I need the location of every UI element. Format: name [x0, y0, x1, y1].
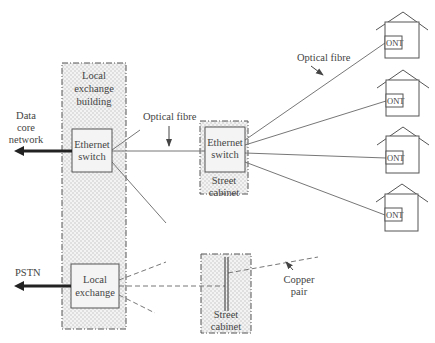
ont-3: ONT — [387, 153, 405, 163]
house-2 — [377, 70, 429, 116]
building-label-line3: building — [76, 96, 112, 107]
cabinet2-label-line2: cabinet — [211, 321, 241, 332]
data-core-label-line2: core — [17, 122, 35, 133]
diagram-canvas: Local exchange building Street cabinet S… — [0, 0, 435, 343]
copper-pair-pointer — [286, 262, 293, 270]
cabinet1-label-line1: Street — [212, 175, 237, 186]
street-cabinet-2: Street cabinet — [201, 254, 251, 333]
pstn-label: PSTN — [15, 267, 41, 278]
optical-fibre-label-1: Optical fibre — [143, 111, 197, 122]
ethernet-switch-exchange: Ethernet switch — [72, 129, 112, 172]
ethernet-switch-cabinet: Ethernet switch — [205, 127, 245, 172]
optical-fibre-pointer-2 — [311, 66, 323, 75]
optical-fibre-links — [112, 43, 386, 223]
eth-switch-cabinet-line1: Ethernet — [207, 137, 243, 148]
local-exchange-line2: exchange — [75, 287, 115, 298]
optical-fibre-label-2: Optical fibre — [297, 52, 351, 63]
data-core-label-line1: Data — [16, 110, 36, 121]
cabinet2-label-line1: Street — [214, 309, 239, 320]
building-label-line2: exchange — [74, 83, 114, 94]
local-exchange-line1: Local — [83, 274, 107, 285]
building-label-line1: Local — [82, 70, 106, 81]
eth-switch-cabinet-line2: switch — [211, 149, 239, 160]
cabinet1-label-line2: cabinet — [209, 187, 239, 198]
eth-switch-left-line1: Ethernet — [74, 139, 110, 150]
copper-pair-label-line2: pair — [291, 286, 308, 297]
ont-4: ONT — [386, 210, 404, 220]
eth-switch-left-line2: switch — [78, 151, 106, 162]
house-1 — [376, 12, 428, 58]
copper-pair-label-line1: Copper — [284, 274, 315, 285]
local-exchange: Local exchange — [71, 264, 119, 308]
ont-2: ONT — [387, 96, 405, 106]
ont-1: ONT — [386, 38, 404, 48]
data-core-label-line3: network — [9, 134, 44, 145]
house-3 — [377, 127, 429, 173]
house-4 — [376, 184, 428, 231]
